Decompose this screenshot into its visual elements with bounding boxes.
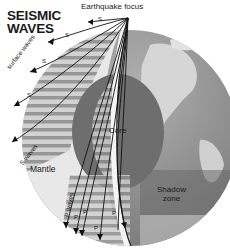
shadow-zone-label: Shadow zone	[157, 185, 186, 203]
diagram-title: SEISMIC WAVES	[7, 9, 61, 35]
seismic-waves-diagram: SEISMIC WAVES Earthquake focus Core Mant…	[0, 0, 230, 251]
earthquake-focus-label: Earthquake focus	[81, 2, 143, 11]
s-marker: S	[98, 16, 102, 22]
p-marker: P	[112, 210, 116, 216]
s-marker: S	[65, 32, 69, 38]
p-marker: P	[74, 214, 78, 220]
title-line-2: WAVES	[7, 22, 61, 35]
shadow-zone-line-2: zone	[157, 194, 186, 203]
mantle-label: Mantle	[30, 164, 56, 174]
core-label: Core	[109, 126, 126, 135]
shadow-zone-line-1: Shadow	[157, 185, 186, 194]
s-marker: S	[27, 92, 31, 98]
p-marker: P	[83, 209, 87, 215]
s-marker: S	[42, 58, 46, 64]
p-marker: P	[94, 225, 98, 231]
